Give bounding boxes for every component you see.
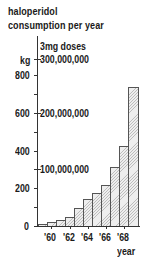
tick-800 [34, 75, 38, 76]
tick-700 [34, 94, 38, 95]
doses-200m-label: 200,000,000 [40, 107, 89, 119]
doses-300m-label: 300,000,000 [40, 53, 89, 65]
kg-unit-label: kg [20, 54, 30, 66]
y-label-400: 400 [15, 145, 30, 157]
x-tick-68 [124, 226, 125, 229]
y-label-200: 200 [15, 182, 30, 194]
tick-0 [34, 226, 38, 227]
x-label-66: '66 [97, 231, 113, 243]
x-label-60: '60 [42, 231, 58, 243]
x-tick-66 [106, 226, 107, 229]
doses-header: 3mg doses [40, 40, 86, 52]
tick-100 [34, 207, 38, 208]
doses-100m-label: 100,000,000 [40, 163, 89, 175]
x-tick-64 [88, 226, 89, 229]
y-label-800: 800 [15, 69, 30, 81]
y-label-600: 600 [15, 107, 30, 119]
bar-1969 [128, 87, 139, 226]
x-label-68: '68 [115, 231, 131, 243]
title-line-1: haloperidol [8, 5, 58, 17]
y-label-0: 0 [24, 220, 29, 232]
tick-200 [34, 188, 38, 189]
x-tick-60 [51, 226, 52, 229]
tick-500 [34, 132, 38, 133]
title-line-2: consumption per year [8, 19, 104, 31]
x-axis-title: year [117, 245, 135, 257]
x-tick-62 [70, 226, 71, 229]
tick-400 [34, 151, 38, 152]
x-label-62: '62 [61, 231, 77, 243]
x-label-64: '64 [79, 231, 95, 243]
